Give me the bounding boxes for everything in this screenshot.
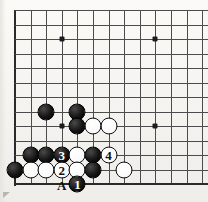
stone-white[interactable]: [22, 161, 39, 178]
stone-black[interactable]: [7, 161, 24, 178]
board-grid-line-horizontal: [15, 39, 208, 40]
numbered-stone-white[interactable]: 4: [100, 147, 117, 164]
stone-black[interactable]: [85, 161, 102, 178]
board-grid-line-horizontal: [15, 54, 208, 55]
star-point: [153, 124, 158, 129]
stone-white[interactable]: [38, 161, 55, 178]
board-grid-line-horizontal: [15, 97, 208, 98]
stone-white[interactable]: [116, 161, 133, 178]
board-grid-line-horizontal: [15, 141, 208, 142]
stone-move-number: 2: [59, 163, 66, 176]
stone-white[interactable]: [85, 118, 102, 135]
stone-move-number: 1: [74, 178, 81, 191]
go-board[interactable]: 3421A: [0, 0, 208, 202]
numbered-stone-white[interactable]: 2: [53, 161, 70, 178]
board-grid-line-vertical: [14, 10, 16, 186]
stone-move-number: 4: [105, 149, 112, 162]
corner-fold-mark: [3, 192, 10, 198]
board-grid-line-horizontal: [15, 68, 208, 69]
board-grid-line-horizontal: [15, 83, 208, 84]
star-point: [59, 37, 64, 42]
board-grid-line-horizontal: [15, 183, 208, 185]
stone-black[interactable]: [69, 118, 86, 135]
board-grid-line-horizontal: [15, 10, 208, 11]
star-point: [153, 37, 158, 42]
stone-white[interactable]: [100, 118, 117, 135]
go-diagram-page: 3421A: [0, 0, 208, 202]
board-grid-line-horizontal: [15, 25, 208, 26]
stone-black[interactable]: [38, 103, 55, 120]
star-point: [59, 124, 64, 129]
point-label-a: A: [57, 179, 66, 192]
stone-move-number: 3: [59, 149, 66, 162]
numbered-stone-black[interactable]: 1: [69, 176, 86, 193]
